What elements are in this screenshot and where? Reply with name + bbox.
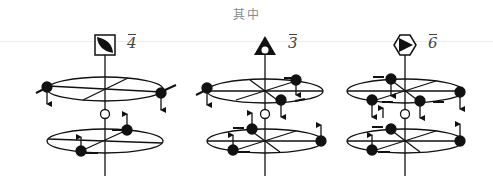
symmetry-diagrams: [0, 0, 493, 189]
panel-4bar: [36, 35, 176, 176]
hexagon-with-triangle-icon: [394, 35, 416, 55]
overbar: [289, 34, 297, 35]
panel-6bar: [347, 35, 465, 176]
panel-3bar: [196, 36, 326, 176]
label-4bar: 4: [127, 34, 137, 52]
label-6bar: 6: [428, 34, 438, 52]
overbar: [128, 34, 136, 35]
atom: [156, 88, 166, 98]
label-3bar: 3: [288, 34, 298, 52]
atom: [42, 82, 52, 92]
square-with-lens-icon: [95, 35, 115, 55]
inversion-center: [101, 110, 110, 119]
overbar: [429, 34, 437, 35]
triangle-with-hole-icon: [254, 36, 276, 55]
